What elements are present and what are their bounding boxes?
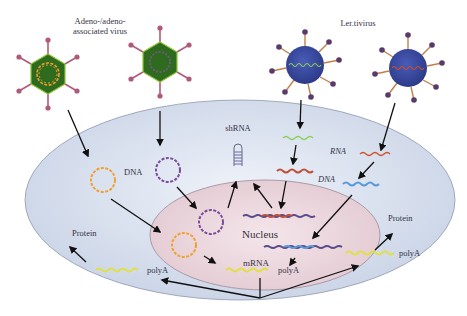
shrna-label: shRNA <box>225 123 251 133</box>
adeno-label-line2: associated virus <box>73 26 127 36</box>
nucleus-label: Nucleus <box>242 228 278 240</box>
protein-label-right: Protein <box>388 213 413 223</box>
polya-label-left: polyA <box>147 265 169 275</box>
lentivirus-label: Ler.tivirus <box>340 18 375 28</box>
adeno-label-line1: Adeno-/adeno- <box>75 16 126 26</box>
dna-label-right: DNA <box>317 174 336 184</box>
dna-label-left: DNA <box>124 167 143 177</box>
protein-label-left: Protein <box>72 228 97 238</box>
lentivirus-green <box>269 29 342 100</box>
rna-label: RNA <box>329 146 347 156</box>
mrna-label: mRNA <box>243 258 270 268</box>
polya-label-right: polyA <box>399 248 421 258</box>
adeno-virus-purple <box>128 25 191 98</box>
adeno-virus-orange <box>16 37 79 110</box>
gene-delivery-diagram: Adeno-/adeno- associated virus Ler.tivir… <box>0 0 467 316</box>
lentivirus-red <box>372 32 445 103</box>
polya-label-center: polyA <box>278 265 300 275</box>
